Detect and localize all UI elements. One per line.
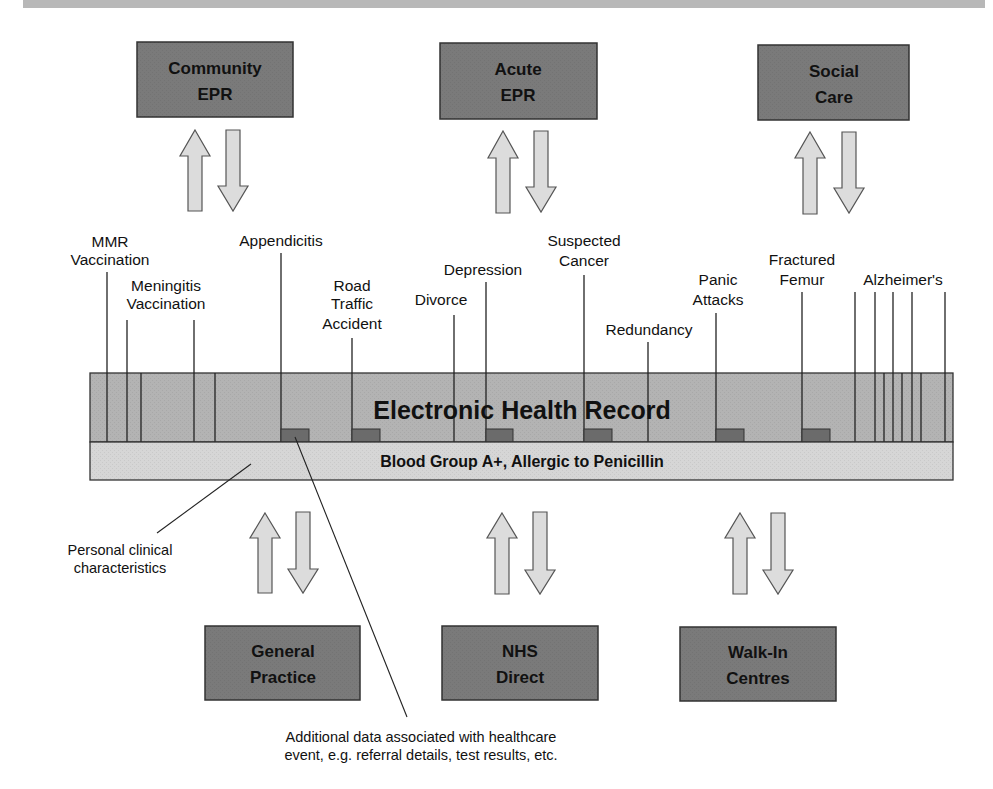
event-label-suspected-cancer: Suspected [547, 232, 620, 249]
ehr-title: Electronic Health Record [373, 396, 670, 424]
event-label-mmr: MMR [91, 233, 128, 250]
event-label-divorce: Divorce [415, 291, 468, 308]
arrow-down-icon [763, 513, 793, 594]
event-label-road-traffic-accident: Accident [322, 315, 382, 332]
arrow-up-icon [180, 130, 210, 211]
event-label-road-traffic-accident: Road [333, 277, 370, 294]
blood-group-band: Blood Group A+, Allergic to Penicillin [90, 442, 953, 480]
data-marker [716, 429, 744, 442]
blood-group-label: Blood Group A+, Allergic to Penicillin [380, 453, 664, 470]
top-bar [23, 0, 985, 8]
event-label-panic-attacks: Attacks [693, 291, 744, 308]
arrow-down-icon [526, 131, 556, 212]
event-label-depression: Depression [444, 261, 522, 278]
event-label-suspected-cancer: Cancer [559, 252, 609, 269]
personal-characteristics-note: characteristics [74, 560, 167, 576]
event-label-alzheimers: Alzheimer's [863, 271, 943, 288]
system-box-acute-epr: Acute EPR [440, 43, 597, 119]
box-label-line1: Acute [494, 60, 541, 79]
arrow-down-icon [288, 512, 318, 593]
personal-characteristics-note: Personal clinical [68, 542, 173, 558]
ehr-diagram: Community EPR Acute EPR Social Care MMR … [0, 0, 993, 789]
event-label-meningitis: Vaccination [127, 295, 206, 312]
system-box-walk-in-centres: Walk-In Centres [680, 627, 836, 701]
event-labels: MMR Vaccination Meningitis Vaccination A… [71, 232, 944, 338]
box-label-line1: General [251, 642, 314, 661]
arrow-up-icon [795, 132, 825, 214]
box-label-line2: EPR [501, 86, 536, 105]
data-marker [352, 429, 380, 442]
event-label-meningitis: Meningitis [131, 277, 201, 294]
box-label-line2: Practice [250, 668, 316, 687]
event-label-redundancy: Redundancy [605, 321, 692, 338]
system-box-general-practice: General Practice [205, 626, 360, 700]
event-label-panic-attacks: Panic [699, 271, 738, 288]
arrow-up-icon [487, 513, 517, 594]
box-label-line1: Walk-In [728, 643, 788, 662]
system-box-community-epr: Community EPR [137, 42, 293, 117]
system-box-nhs-direct: NHS Direct [442, 626, 598, 700]
additional-data-note: Additional data associated with healthca… [286, 729, 557, 745]
box-label-line2: Care [815, 88, 853, 107]
box-label-line1: Social [809, 62, 859, 81]
event-label-road-traffic-accident: Traffic [331, 295, 373, 312]
additional-data-note: event, e.g. referral details, test resul… [284, 747, 557, 763]
data-marker [802, 429, 830, 442]
data-marker [584, 429, 612, 442]
event-label-appendicitis: Appendicitis [239, 232, 323, 249]
box-label-line2: EPR [198, 85, 233, 104]
arrow-up-icon [250, 513, 280, 593]
arrow-up-icon [725, 513, 755, 594]
system-box-social-care: Social Care [758, 45, 909, 120]
arrow-down-icon [218, 130, 248, 211]
arrow-up-icon [488, 131, 518, 213]
event-label-mmr: Vaccination [71, 251, 150, 268]
event-label-fractured-femur: Fractured [769, 251, 835, 268]
arrow-down-icon [525, 512, 555, 594]
arrow-down-icon [834, 132, 864, 213]
event-label-fractured-femur: Femur [780, 271, 825, 288]
data-marker [281, 429, 309, 442]
box-label-line2: Direct [496, 668, 545, 687]
box-label-line1: NHS [502, 642, 538, 661]
box-label-line1: Community [168, 59, 262, 78]
box-label-line2: Centres [726, 669, 789, 688]
data-marker [486, 429, 513, 442]
